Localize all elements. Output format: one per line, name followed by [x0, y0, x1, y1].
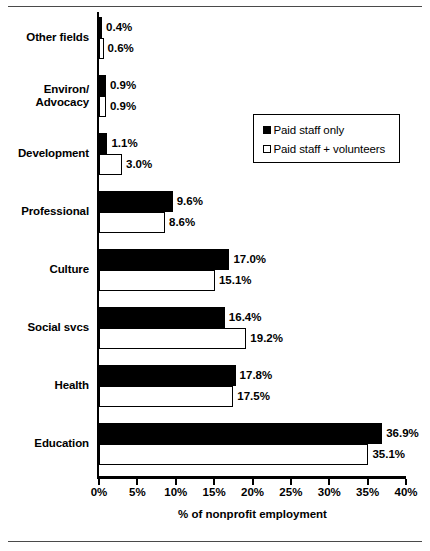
- legend-swatch-hollow-square-icon: [263, 145, 271, 153]
- bar-value-label: 17.0%: [229, 249, 266, 270]
- bar-value-label: 19.2%: [246, 328, 283, 349]
- bar-value-label: 36.9%: [382, 423, 419, 444]
- plot-area: 0%5%10%15%20%25%30%35%40%0.4%0.6%0.9%0.9…: [99, 12, 406, 476]
- bar-value-label: 17.8%: [236, 365, 273, 386]
- bar-vol: [99, 212, 165, 233]
- bar-value-label: 15.1%: [215, 270, 252, 291]
- category-axis-label: Culture: [0, 263, 89, 277]
- bar-value-label: 0.9%: [106, 96, 136, 117]
- category-label-line: Health: [54, 379, 89, 391]
- category-label-line: Culture: [49, 263, 89, 275]
- bar-paid: [99, 75, 106, 96]
- bar-vol: [99, 270, 215, 291]
- bar-value-label: 16.4%: [225, 307, 262, 328]
- legend-label: Paid staff only: [274, 124, 345, 136]
- bar-vol: [99, 386, 233, 407]
- category-label-line: Social svcs: [27, 321, 89, 333]
- x-axis-title: % of nonprofit employment: [99, 508, 406, 520]
- category-axis-label: Development: [0, 147, 89, 161]
- x-axis-tick: [405, 479, 407, 485]
- legend-swatch-filled-square-icon: [263, 126, 271, 134]
- bar-chart-figure: Other fieldsEnviron/AdvocacyDevelopmentP…: [0, 12, 430, 537]
- bar-vol: [99, 328, 246, 349]
- bar-value-label: 0.9%: [106, 75, 136, 96]
- x-axis-tick: [136, 479, 138, 485]
- category-axis-label: Education: [0, 437, 89, 451]
- bar-vol: [99, 444, 368, 465]
- legend-item-paid-staff-plus-volunteers: Paid staff + volunteers: [263, 142, 385, 156]
- legend-label: Paid staff + volunteers: [274, 143, 386, 155]
- category-axis-labels: Other fieldsEnviron/AdvocacyDevelopmentP…: [0, 12, 93, 476]
- category-label-line: Development: [18, 147, 89, 159]
- bar-paid: [99, 365, 236, 386]
- category-label-line: Advocacy: [35, 96, 89, 108]
- bar-value-label: 3.0%: [122, 154, 152, 175]
- bar-value-label: 1.1%: [107, 133, 137, 154]
- bar-value-label: 0.4%: [102, 17, 132, 38]
- bar-value-label: 8.6%: [165, 212, 195, 233]
- bottom-divider-rule: [8, 541, 422, 542]
- category-axis-label: Environ/Advocacy: [0, 83, 89, 110]
- category-label-line: Professional: [21, 205, 89, 217]
- category-label-line: Education: [34, 437, 89, 449]
- top-divider-rule: [8, 6, 422, 7]
- bar-value-label: 9.6%: [173, 191, 203, 212]
- bar-value-label: 35.1%: [368, 444, 405, 465]
- category-axis-label: Other fields: [0, 31, 89, 45]
- bar-paid: [99, 133, 107, 154]
- bar-value-label: 17.5%: [233, 386, 270, 407]
- bar-paid: [99, 423, 382, 444]
- bar-paid: [99, 249, 229, 270]
- legend-item-paid-staff-only: Paid staff only: [263, 123, 344, 137]
- chart-legend: Paid staff only Paid staff + volunteers: [253, 114, 400, 163]
- x-axis-tick: [98, 479, 100, 485]
- x-axis-tick: [328, 479, 330, 485]
- bar-paid: [99, 307, 225, 328]
- category-axis-label: Health: [0, 379, 89, 393]
- x-axis-tick-label: 40%: [383, 486, 429, 498]
- x-axis-tick: [290, 479, 292, 485]
- x-axis-tick: [252, 479, 254, 485]
- bar-vol: [99, 96, 106, 117]
- bar-vol: [99, 154, 122, 175]
- x-axis-tick: [213, 479, 215, 485]
- bar-paid: [99, 191, 173, 212]
- x-axis-tick: [175, 479, 177, 485]
- x-axis-tick: [367, 479, 369, 485]
- category-label-line: Other fields: [26, 31, 89, 43]
- bar-value-label: 0.6%: [104, 38, 134, 59]
- category-axis-label: Social svcs: [0, 321, 89, 335]
- category-label-line: Environ/: [44, 83, 89, 95]
- category-axis-label: Professional: [0, 205, 89, 219]
